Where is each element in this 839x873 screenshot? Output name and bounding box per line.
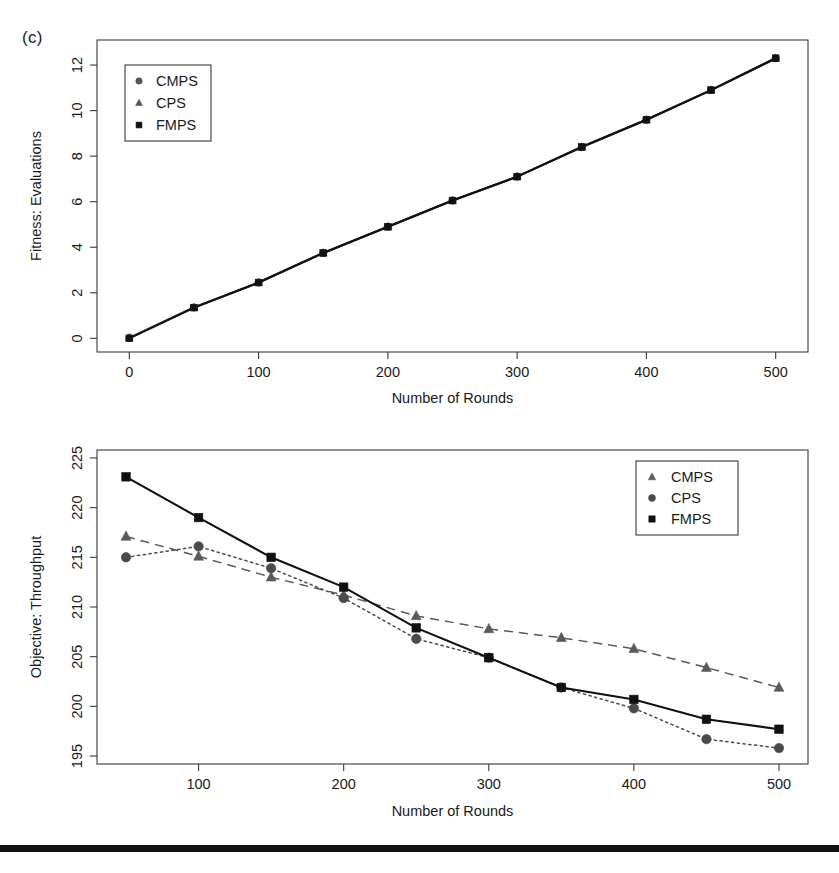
data-point-marker [194, 551, 204, 560]
x-tick-label: 100 [246, 364, 270, 380]
legend-label: CPS [671, 490, 701, 506]
x-tick-label: 400 [634, 364, 658, 380]
series-group [125, 54, 779, 342]
x-axis-title: Number of Rounds [392, 803, 514, 819]
data-point-marker [255, 279, 262, 286]
series-cmps [121, 531, 784, 691]
legend-label: FMPS [671, 511, 711, 527]
x-tick-label: 200 [332, 776, 356, 792]
series-line [126, 546, 779, 748]
x-tick-label: 300 [505, 364, 529, 380]
x-tick-label: 200 [376, 364, 400, 380]
figure-panel-c: (c) 0100200300400500024681012Number of R… [0, 0, 839, 873]
legend-marker [649, 495, 656, 502]
data-point-marker [121, 553, 130, 562]
y-tick-label: 205 [69, 645, 85, 669]
y-tick-label: 4 [69, 243, 85, 251]
data-point-marker [121, 531, 131, 540]
legend-label: FMPS [156, 117, 196, 133]
y-tick-label: 2 [69, 289, 85, 297]
x-tick-label: 0 [125, 364, 133, 380]
y-tick-label: 6 [69, 198, 85, 206]
data-point-marker [122, 473, 131, 482]
y-axis-title: Fitness: Evaluations [28, 131, 44, 261]
data-point-marker [267, 553, 276, 562]
legend-label: CMPS [156, 73, 198, 89]
chart-objective-throughput: 100200300400500195200205210215220225Numb… [0, 420, 839, 873]
y-axis-title: Objective: Throughput [28, 536, 44, 678]
data-point-marker [194, 513, 203, 522]
y-tick-label: 210 [69, 595, 85, 619]
y-tick-label: 0 [69, 334, 85, 342]
y-tick-label: 195 [69, 744, 85, 768]
data-point-marker [556, 632, 566, 641]
data-point-marker [385, 223, 392, 230]
data-point-marker [339, 593, 348, 602]
data-point-marker [412, 634, 421, 643]
data-point-marker [411, 610, 421, 619]
data-point-marker [702, 734, 711, 743]
y-tick-label: 225 [69, 446, 85, 470]
y-tick-label: 8 [69, 152, 85, 160]
legend-label: CMPS [671, 469, 713, 485]
bottom-rule [0, 845, 839, 852]
legend-marker [649, 516, 655, 522]
y-tick-label: 10 [69, 103, 85, 119]
data-point-marker [578, 144, 585, 151]
y-tick-label: 220 [69, 496, 85, 520]
data-point-marker [484, 623, 494, 632]
data-point-marker [708, 87, 715, 94]
x-tick-label: 500 [767, 776, 791, 792]
series-fmps [126, 55, 779, 342]
data-point-marker [630, 695, 639, 704]
y-tick-label: 200 [69, 694, 85, 718]
x-tick-label: 400 [622, 776, 646, 792]
x-tick-label: 300 [477, 776, 501, 792]
data-point-marker [702, 715, 711, 724]
y-axis: 195200205210215220225 [69, 446, 97, 768]
chart-fitness-evaluations: 0100200300400500024681012Number of Round… [0, 0, 839, 420]
data-point-marker [774, 743, 783, 752]
data-point-marker [339, 583, 348, 592]
data-point-marker [412, 624, 421, 633]
data-point-marker [775, 725, 784, 734]
series-line [126, 536, 779, 687]
data-point-marker [191, 304, 198, 311]
legend-marker [136, 78, 142, 84]
x-axis: 0100200300400500 [125, 352, 788, 380]
data-point-marker [194, 542, 203, 551]
x-tick-label: 100 [186, 776, 210, 792]
legend: CMPSCPSFMPS [125, 65, 211, 141]
data-point-marker [320, 250, 327, 257]
legend-label: CPS [156, 95, 186, 111]
y-axis: 024681012 [69, 57, 97, 342]
data-point-marker [485, 653, 494, 662]
legend-marker [136, 122, 142, 128]
x-tick-label: 500 [764, 364, 788, 380]
data-point-marker [772, 55, 779, 62]
x-axis-title: Number of Rounds [392, 390, 514, 406]
data-point-marker [514, 173, 521, 180]
data-point-marker [126, 335, 133, 342]
data-point-marker [643, 116, 650, 123]
legend: CMPSCPSFMPS [636, 461, 738, 535]
series-cps [121, 542, 783, 753]
data-point-marker [449, 197, 456, 204]
data-point-marker [266, 564, 275, 573]
y-tick-label: 12 [69, 57, 85, 73]
data-point-marker [629, 704, 638, 713]
y-tick-label: 215 [69, 545, 85, 569]
x-axis: 100200300400500 [186, 764, 791, 792]
data-point-marker [557, 683, 566, 692]
